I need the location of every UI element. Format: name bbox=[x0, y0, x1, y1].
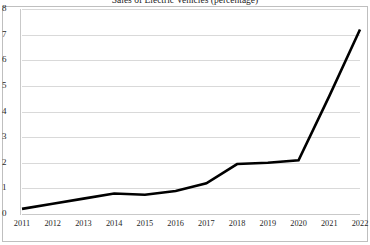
value-tick-label-8: 8 bbox=[2, 4, 18, 13]
value-tick-label-1: 1 bbox=[2, 183, 18, 192]
category-tick-label-2018: 2018 bbox=[221, 219, 253, 228]
series-line-group bbox=[22, 9, 360, 214]
value-tick-label-2: 2 bbox=[2, 158, 18, 167]
value-tick-label-6: 6 bbox=[2, 55, 18, 64]
series-line-sales-of-electric-vehicles bbox=[22, 30, 360, 209]
category-tick-label-2021: 2021 bbox=[313, 219, 345, 228]
category-tick-label-2022: 2022 bbox=[344, 219, 370, 228]
value-axis-spine bbox=[20, 9, 21, 215]
category-tick-label-2014: 2014 bbox=[98, 219, 130, 228]
gridline-0 bbox=[22, 214, 360, 215]
category-tick-label-2019: 2019 bbox=[252, 219, 284, 228]
category-tick-label-2017: 2017 bbox=[190, 219, 222, 228]
value-tick-label-4: 4 bbox=[2, 107, 18, 116]
value-tick-label-3: 3 bbox=[2, 132, 18, 141]
category-tick-label-2015: 2015 bbox=[129, 219, 161, 228]
value-tick-label-0: 0 bbox=[2, 209, 18, 218]
value-tick-label-7: 7 bbox=[2, 30, 18, 39]
category-tick-label-2016: 2016 bbox=[160, 219, 192, 228]
category-axis-tick-labels: 2011201220132014201520162017201820192020… bbox=[22, 219, 360, 231]
category-tick-label-2012: 2012 bbox=[37, 219, 69, 228]
value-tick-label-5: 5 bbox=[2, 81, 18, 90]
category-tick-label-2020: 2020 bbox=[283, 219, 315, 228]
line-chart: Sales of Electric Vehicles (percentage) … bbox=[0, 0, 370, 245]
category-tick-label-2013: 2013 bbox=[67, 219, 99, 228]
category-tick-label-2011: 2011 bbox=[6, 219, 38, 228]
plot-area: 012345678 bbox=[22, 9, 360, 214]
